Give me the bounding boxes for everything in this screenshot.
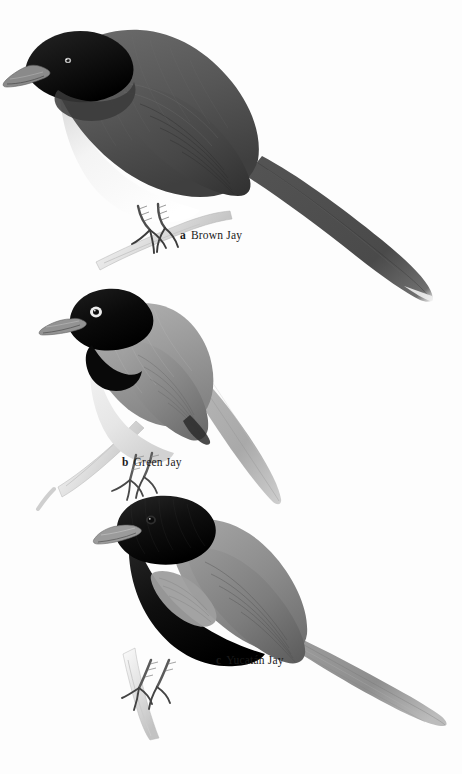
figure-name-b: Green Jay [134,456,182,468]
figure-label-c: cYucatán Jay [216,654,284,666]
field-guide-plate: aBrown Jay [0,0,462,774]
figure-name-c: Yucatán Jay [226,654,283,666]
figure-name-a: Brown Jay [191,229,242,241]
bird-illustration-brown-jay [0,0,462,320]
tail-yucatan-jay [283,634,447,726]
legs-yucatan-jay [139,660,169,688]
bird-illustration-green-jay [30,275,370,515]
figure-label-b: bGreen Jay [122,456,182,468]
figure-label-a: aBrown Jay [180,229,242,241]
figure-letter-c: c [216,654,221,666]
figure-letter-a: a [180,229,186,241]
bird-illustration-yucatan-jay [95,490,462,740]
figure-letter-b: b [122,456,129,468]
